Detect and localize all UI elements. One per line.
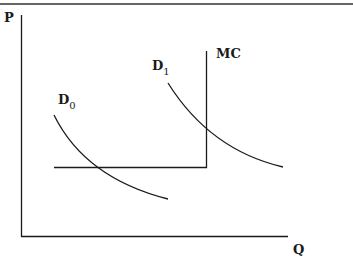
d0-label-main: D bbox=[58, 92, 69, 107]
mc-curve bbox=[54, 51, 207, 168]
y-axis-label: P bbox=[4, 10, 14, 25]
mc-label: MC bbox=[216, 46, 241, 61]
x-axis-label: Q bbox=[293, 242, 304, 257]
d1-label-main: D bbox=[152, 58, 163, 73]
diagram-canvas: P Q MC D0 D1 bbox=[0, 0, 353, 260]
d0-label-sub: 0 bbox=[69, 100, 75, 111]
d1-label: D1 bbox=[152, 58, 170, 77]
d1-label-sub: 1 bbox=[163, 66, 169, 77]
d0-label: D0 bbox=[58, 92, 76, 111]
d1-curve bbox=[168, 83, 283, 167]
d0-curve bbox=[54, 115, 168, 199]
